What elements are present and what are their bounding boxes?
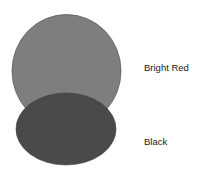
bright-red-label: Bright Red <box>144 63 189 73</box>
diagram-canvas <box>0 0 209 181</box>
black-label: Black <box>144 137 167 147</box>
black-ellipse <box>16 93 116 165</box>
